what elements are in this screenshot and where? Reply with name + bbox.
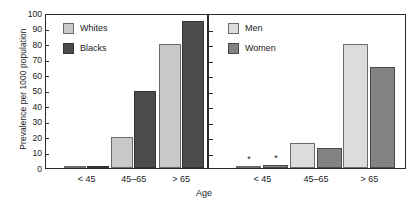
bar-women-45	[263, 165, 288, 168]
y-axis-tick-label: 50	[32, 87, 42, 96]
legend-swatch-women	[228, 43, 239, 54]
bar-blacks-45	[87, 166, 109, 168]
right-axis-tick-mark	[209, 93, 213, 94]
chart-figure: Prevalence per 1000 population 100908070…	[0, 0, 408, 211]
right-axis-tick-mark	[209, 31, 213, 32]
sex-panel-plot-area: **	[208, 15, 405, 168]
legend-label-women: Women	[245, 44, 276, 53]
y-axis-tick-label: 100	[28, 10, 42, 19]
y-axis-tick-label: 70	[32, 56, 42, 65]
y-axis-tick-label: 80	[32, 41, 42, 50]
x-axis-tick-label: 45–65	[286, 175, 346, 184]
sex-panel: **	[208, 14, 406, 169]
bar-blacks-4565	[134, 91, 156, 169]
y-axis-tick-labels: 1009080706050403020100	[18, 0, 42, 211]
right-axis-tick-mark	[209, 46, 213, 47]
bar-women-65	[370, 67, 395, 168]
bar-men-4565	[290, 143, 315, 168]
y-axis-tick-label: 10	[32, 149, 42, 158]
y-axis-tick-label: 40	[32, 103, 42, 112]
right-axis-tick-mark	[209, 155, 213, 156]
y-axis-tick-label: 20	[32, 134, 42, 143]
race-panel-plot-area	[45, 15, 207, 168]
bar-whites-4565	[111, 137, 133, 168]
bar-blacks-65	[182, 21, 204, 168]
bar-men-65	[343, 44, 368, 168]
legend-swatch-men	[228, 23, 239, 34]
legend-swatch-whites	[63, 23, 74, 34]
bar-women-4565	[317, 148, 342, 168]
legend-label-men: Men	[245, 24, 263, 33]
right-axis-tick-mark	[209, 62, 213, 63]
right-axis-tick-mark	[209, 124, 213, 125]
y-axis-tick-label: 90	[32, 25, 42, 34]
y-axis-tick-label: 30	[32, 118, 42, 127]
bar-whites-45	[64, 166, 86, 168]
x-axis-tick-label: > 65	[151, 175, 211, 184]
bar-men-45	[236, 166, 261, 168]
race-panel	[45, 14, 208, 169]
bar-whites-65	[159, 44, 181, 168]
right-axis-tick-mark	[209, 77, 213, 78]
legend-label-blacks: Blacks	[80, 44, 107, 53]
y-axis-tick-label: 0	[37, 165, 42, 174]
bar-annotation-asterisk: *	[271, 154, 281, 163]
legend-label-whites: Whites	[80, 24, 108, 33]
legend-swatch-blacks	[63, 43, 74, 54]
right-axis-tick-mark	[209, 108, 213, 109]
x-axis-tick-label: < 45	[232, 175, 292, 184]
x-axis-title: Age	[164, 189, 244, 198]
bar-annotation-asterisk: *	[244, 155, 254, 164]
right-panel-axis-line	[208, 15, 209, 168]
y-axis-tick-label: 60	[32, 72, 42, 81]
x-axis-tick-label: > 65	[339, 175, 399, 184]
right-axis-tick-mark	[209, 139, 213, 140]
